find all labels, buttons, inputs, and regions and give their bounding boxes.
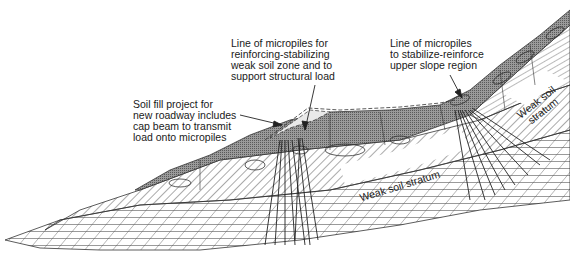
label-micropiles-weak-zone: Line of micropiles for reinforcing-stabi… (231, 38, 335, 82)
label-fill-project: Soil fill project for new roadway includ… (133, 99, 236, 143)
label-micropiles-upper-slope: Line of micropiles to stabilize-reinforc… (390, 38, 484, 71)
